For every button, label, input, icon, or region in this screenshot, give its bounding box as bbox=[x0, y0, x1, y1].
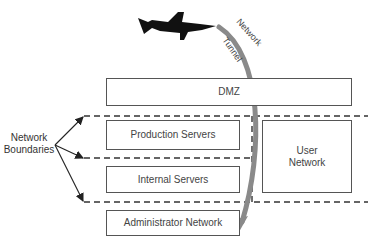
user-network-label-line1: User bbox=[296, 145, 317, 157]
user-network-label-line2: Network bbox=[289, 157, 326, 169]
shark-icon bbox=[138, 12, 216, 40]
internal-servers-label: Internal Servers bbox=[138, 174, 209, 186]
network-boundaries-label: Network Boundaries bbox=[3, 132, 55, 156]
internal-servers-box: Internal Servers bbox=[106, 166, 240, 193]
production-servers-box: Production Servers bbox=[106, 120, 240, 150]
dmz-label: DMZ bbox=[218, 86, 240, 98]
dmz-box: DMZ bbox=[106, 78, 352, 106]
boundaries-line2: Boundaries bbox=[3, 144, 55, 156]
administrator-network-box: Administrator Network bbox=[106, 210, 240, 236]
production-servers-label: Production Servers bbox=[130, 129, 215, 141]
boundaries-line1: Network bbox=[3, 132, 55, 144]
tunnel-label-network: Network bbox=[235, 17, 265, 49]
user-network-box: User Network bbox=[262, 120, 352, 193]
boundary-pointer-arrows bbox=[55, 117, 83, 201]
administrator-network-label: Administrator Network bbox=[124, 217, 222, 229]
